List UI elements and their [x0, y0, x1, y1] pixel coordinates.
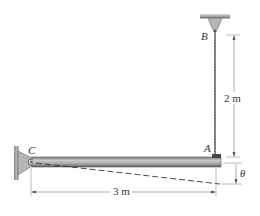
label-a: A [203, 142, 211, 154]
label-b: B [201, 30, 208, 42]
dimension-vertical-label: 2 m [224, 92, 241, 104]
label-c: C [28, 144, 36, 156]
angle-theta-dimension [222, 163, 242, 184]
label-theta: θ [240, 167, 246, 179]
beam-wire-diagram: B 2 m C A θ [0, 0, 260, 216]
beam-ca [32, 154, 221, 167]
dimension-horizontal-label: 3 m [113, 185, 130, 197]
